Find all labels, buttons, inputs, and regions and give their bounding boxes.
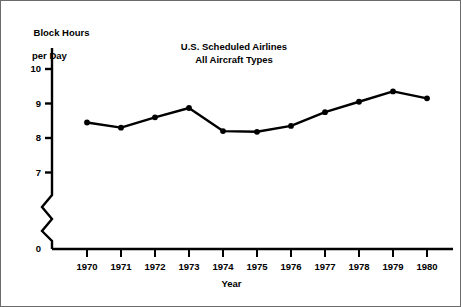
series-line-block-hours	[87, 91, 427, 131]
y-tick-label-0: 0	[15, 243, 41, 254]
data-point-1980	[424, 95, 430, 101]
data-point-1974	[220, 128, 226, 134]
data-point-1978	[356, 99, 362, 105]
x-tick-label-1980: 1980	[407, 261, 447, 272]
data-point-1975	[254, 129, 260, 135]
data-point-1972	[152, 114, 158, 120]
chart-screenshot: Block Hours per Day U.S. Scheduled Airli…	[0, 0, 461, 307]
y-tick-label-9: 9	[15, 98, 41, 109]
y-tick-label-7: 7	[15, 167, 41, 178]
y-tick-label-10: 10	[15, 63, 41, 74]
y-tick-label-8: 8	[15, 132, 41, 143]
x-axis-title: Year	[1, 278, 461, 290]
data-point-1970	[84, 120, 90, 126]
data-point-1973	[186, 105, 192, 111]
data-point-1977	[322, 109, 328, 115]
data-point-1979	[390, 89, 396, 95]
data-point-1976	[288, 123, 294, 129]
data-point-1971	[118, 125, 124, 131]
y-axis-break-zigzag-icon	[42, 190, 52, 249]
